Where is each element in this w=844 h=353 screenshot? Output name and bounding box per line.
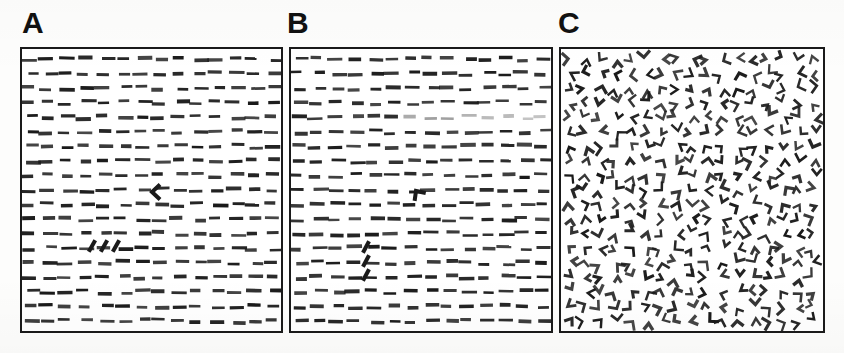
distractor-chevron [679, 144, 687, 152]
distractor-chevron [690, 117, 700, 123]
distractor-chevron [626, 129, 635, 136]
distractor-chevron [685, 250, 691, 257]
distractor-chevron [687, 148, 696, 153]
distractor-chevron [581, 109, 590, 116]
distractor-chevron [757, 236, 770, 244]
panel-c-stimulus-canvas [561, 49, 823, 331]
distractor-chevron [625, 184, 633, 192]
distractor-chevron [793, 294, 802, 303]
distractor-chevron [605, 293, 615, 301]
distractor-chevron [770, 177, 777, 184]
distractor-chevron [694, 214, 700, 224]
oblique-dash-target-1 [89, 240, 96, 251]
panel-b-stimulus-canvas [291, 49, 551, 331]
distractor-chevron [751, 56, 758, 65]
distractor-chevron [702, 89, 710, 97]
distractor-chevron [720, 195, 728, 203]
distractor-chevron [809, 139, 821, 147]
distractor-chevron [700, 200, 708, 211]
distractor-chevron [656, 273, 663, 280]
distractor-chevron [811, 160, 819, 167]
distractor-chevron [751, 248, 759, 255]
distractor-chevron [701, 158, 714, 165]
distractor-chevron [740, 283, 748, 290]
distractor-chevron [723, 239, 730, 246]
distractor-chevron [686, 269, 693, 276]
distractor-chevron [645, 270, 654, 279]
distractor-chevron [577, 261, 589, 267]
distractor-chevron [785, 229, 792, 237]
distractor-chevron [732, 321, 744, 327]
distractor-chevron [566, 154, 572, 163]
distractor-chevron [640, 199, 646, 208]
distractor-chevron [588, 289, 596, 298]
distractor-chevron [595, 97, 605, 105]
distractor-chevron [569, 247, 576, 254]
distractor-chevron [699, 57, 706, 64]
distractor-chevron [652, 248, 659, 257]
distractor-chevron [689, 184, 698, 191]
distractor-chevron [582, 158, 590, 165]
distractor-chevron [721, 291, 728, 300]
distractor-chevron [640, 125, 648, 137]
distractor-chevron [715, 124, 721, 135]
distractor-chevron [589, 265, 598, 274]
distractor-chevron [722, 269, 730, 278]
distractor-chevron [768, 257, 773, 267]
distractor-chevron [809, 205, 815, 212]
panel-label-c: C [558, 8, 580, 38]
distractor-chevron [760, 285, 766, 296]
distractor-chevron [583, 65, 590, 75]
distractor-chevron [700, 124, 708, 134]
distractor-chevron [641, 154, 651, 160]
distractor-chevron [739, 242, 746, 251]
distractor-chevron [744, 117, 757, 125]
figure-root: A B C [0, 0, 844, 353]
distractor-chevron [776, 320, 784, 331]
distractor-chevron [624, 89, 633, 95]
distractor-chevron [608, 235, 617, 244]
distractor-chevron [581, 201, 588, 211]
distractor-chevron [774, 74, 782, 82]
panel-b [289, 47, 553, 333]
distractor-chevron [671, 123, 682, 131]
distractor-chevron [638, 176, 647, 185]
distractor-chevron [715, 146, 722, 153]
distractor-chevron [747, 126, 757, 133]
distractor-chevron [645, 110, 653, 118]
distractor-chevron [632, 143, 639, 150]
distractor-chevron [740, 216, 748, 228]
distractor-chevron [740, 149, 748, 157]
distractor-chevron [697, 271, 704, 282]
distractor-chevron [599, 52, 608, 60]
distractor-chevron [793, 205, 800, 213]
distractor-chevron [593, 192, 602, 198]
distractor-chevron [632, 114, 640, 124]
distractor-chevron [667, 280, 678, 288]
distractor-chevron [752, 319, 761, 327]
distractor-chevron [562, 53, 568, 66]
distractor-chevron [763, 271, 770, 278]
distractor-chevron [698, 287, 705, 297]
distractor-chevron [685, 287, 692, 294]
distractor-chevron [575, 85, 582, 94]
panel-a [20, 47, 283, 333]
distractor-chevron [768, 180, 779, 188]
distractor-chevron [589, 300, 598, 309]
distractor-chevron [659, 87, 667, 94]
distractor-chevron [738, 53, 745, 62]
distractor-chevron [684, 154, 693, 161]
distractor-chevron [746, 147, 755, 155]
distractor-chevron [565, 282, 573, 289]
distractor-chevron [777, 302, 784, 315]
distractor-chevron [591, 203, 601, 211]
distractor-chevron [567, 147, 576, 154]
distractor-chevron [697, 262, 708, 271]
distractor-chevron [698, 67, 707, 75]
panel-label-a: A [22, 8, 44, 38]
oblique-dash-target-1 [363, 241, 369, 252]
distractor-chevron [593, 320, 602, 329]
distractor-chevron [674, 71, 683, 81]
oblique-dash-target-2 [101, 240, 108, 251]
distractor-chevron [637, 50, 650, 57]
